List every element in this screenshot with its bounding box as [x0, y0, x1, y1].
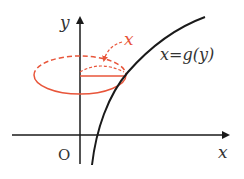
rotation-diagram: y x O x=g(y) x: [0, 0, 244, 179]
origin-label: O: [58, 146, 70, 164]
curve-label: x=g(y): [160, 45, 214, 64]
y-axis-label: y: [59, 12, 70, 32]
radius-indicator-arc: [80, 66, 124, 72]
radius-leader: [104, 42, 122, 60]
radius-label: x: [124, 29, 134, 49]
x-axis-label: x: [218, 142, 228, 162]
curve-g: [92, 17, 205, 165]
